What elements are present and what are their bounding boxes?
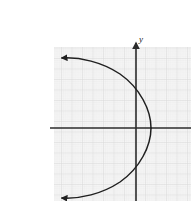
parabola-graph-figure: y x (40, 16, 191, 201)
coordinate-plane-svg: y x (40, 16, 191, 201)
y-axis-label: y (138, 34, 143, 44)
graph-screenshot: y x (0, 0, 191, 201)
plot-grid-panel (54, 47, 191, 201)
